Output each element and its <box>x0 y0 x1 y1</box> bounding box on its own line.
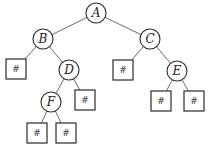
edge-d-f <box>56 79 64 94</box>
node-d: D <box>59 60 79 80</box>
null-leaf-label: # <box>157 96 165 106</box>
edge-c-c_left <box>132 47 144 60</box>
edge-e-e_right <box>182 80 188 91</box>
edge-d-d_right <box>74 79 80 90</box>
edge-c-e <box>156 47 170 64</box>
edge-a-b <box>52 17 87 34</box>
node-f: F <box>41 92 61 112</box>
edge-a-c <box>105 17 141 34</box>
null-leaf-label: # <box>190 96 198 106</box>
node-a: A <box>86 3 106 23</box>
null-leaf-label: # <box>12 64 20 74</box>
node-label: B <box>38 32 48 46</box>
null-leaf-label: # <box>62 128 70 138</box>
edge-f-f_right <box>55 111 61 123</box>
tree-svg: ABCDEF ####### <box>0 0 211 156</box>
node-label: E <box>172 64 182 78</box>
edge-b-b_left <box>25 46 36 59</box>
edge-b-d <box>49 47 62 63</box>
edge-f-f_left <box>42 111 47 123</box>
node-b: B <box>33 29 53 49</box>
leaf-f-left: # <box>27 123 47 143</box>
leaf-b-left: # <box>6 59 26 79</box>
leaf-c-left: # <box>113 60 133 80</box>
node-label: F <box>46 95 56 109</box>
leaf-e-left: # <box>151 91 171 111</box>
node-label: D <box>63 63 74 77</box>
node-label: A <box>91 6 101 20</box>
null-leaf-label: # <box>119 65 127 75</box>
tree-diagram: ABCDEF ####### <box>0 0 211 156</box>
node-e: E <box>167 61 187 81</box>
edge-e-e_left <box>166 80 172 91</box>
null-leaf-label: # <box>81 95 89 105</box>
leaf-f-right: # <box>56 123 76 143</box>
node-label: C <box>145 32 154 46</box>
leaf-d-right: # <box>75 90 95 110</box>
leaf-e-right: # <box>184 91 204 111</box>
node-c: C <box>140 29 160 49</box>
null-leaf-label: # <box>33 128 41 138</box>
